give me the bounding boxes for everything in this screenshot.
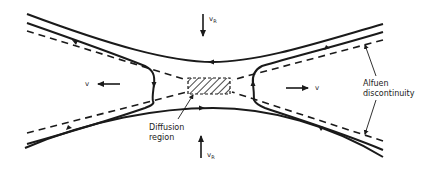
diffusion-label-line1: Diffusion [149, 123, 184, 132]
alfven-label-line2: discontinuity [363, 89, 415, 98]
flow-arrow-icon [199, 106, 205, 111]
field-line-inner-left [27, 23, 154, 144]
flow-arrow-icon [324, 45, 330, 50]
inflow-bottom-label: vR [207, 151, 215, 160]
reconnection-diagram: vR vR v v Diffusion region Alfuen discon… [0, 0, 427, 169]
flow-arrow-icon [66, 125, 72, 130]
field-line-outer-bottom [25, 108, 383, 157]
alfven-label-line1: Alfuen [363, 79, 389, 88]
outflow-right-label: v [315, 84, 319, 92]
diffusion-leader-line [178, 95, 193, 119]
diffusion-label-line2: region [149, 133, 174, 142]
diffusion-region-box [188, 78, 230, 94]
alfven-leader-top [365, 45, 376, 76]
flow-arrow-icon [208, 60, 214, 65]
flow-arrow-icon [251, 80, 256, 86]
flow-arrow-icon [152, 82, 157, 88]
flow-arrow-icon [72, 40, 78, 45]
outflow-left-label: v [85, 80, 89, 88]
field-line-outer-top [27, 14, 383, 62]
inflow-top-label: vR [209, 15, 217, 24]
alfven-leader-bottom [365, 100, 376, 134]
